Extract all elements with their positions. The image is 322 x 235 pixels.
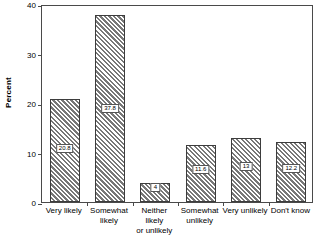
y-tick-label: 10 xyxy=(18,150,36,159)
bar-value-label: 13 xyxy=(240,162,253,171)
y-tick-label: 30 xyxy=(18,51,36,60)
x-axis-category-label: Somewhat likely xyxy=(86,206,131,226)
x-axis-category-label: Very likely xyxy=(41,206,86,216)
bar-value-label: 4 xyxy=(151,183,160,192)
bar-value-label: 37.8 xyxy=(101,104,119,113)
y-tick-label: 40 xyxy=(18,1,36,10)
bar: 13 xyxy=(231,138,261,202)
x-axis-category-label: Very unlikely xyxy=(222,206,267,216)
bar: 4 xyxy=(140,183,170,202)
x-axis-category-label: Somewhat unlikely xyxy=(177,206,222,226)
y-tick-mark xyxy=(38,154,42,155)
bar: 37.8 xyxy=(95,15,125,202)
y-tick-mark xyxy=(38,6,42,7)
y-tick-label: 20 xyxy=(18,100,36,109)
y-tick-mark xyxy=(38,204,42,205)
bar: 11.6 xyxy=(186,145,216,202)
plot-area: 01020304020.837.8411.61312.2 xyxy=(41,5,313,203)
y-tick-mark xyxy=(38,105,42,106)
bar-value-label: 20.8 xyxy=(56,144,74,153)
x-axis-category-label: Neither likely or unlikely xyxy=(132,206,177,235)
y-tick-label: 0 xyxy=(18,199,36,208)
bar-value-label: 12.2 xyxy=(282,164,300,173)
bar-chart: Percent 01020304020.837.8411.61312.2 Ver… xyxy=(0,0,322,235)
x-axis-category-label: Don't know xyxy=(268,206,313,216)
bar: 12.2 xyxy=(276,142,306,202)
bar-value-label: 11.6 xyxy=(192,165,209,174)
bar: 20.8 xyxy=(50,99,80,202)
y-tick-mark xyxy=(38,55,42,56)
y-axis-title: Percent xyxy=(4,63,13,123)
